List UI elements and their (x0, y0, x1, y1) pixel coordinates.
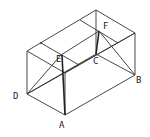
box-edges (27, 10, 135, 115)
label-a: A (59, 120, 65, 130)
label-c: C (93, 56, 98, 66)
label-b: B (136, 75, 141, 85)
box-diagram: A B C D E F (0, 0, 150, 137)
label-f: F (103, 21, 108, 31)
label-d: D (13, 91, 18, 101)
construction-lines (27, 20, 135, 115)
label-e: E (56, 54, 61, 64)
